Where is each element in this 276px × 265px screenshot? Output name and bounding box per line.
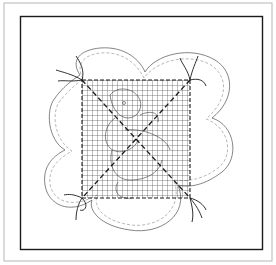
illustration: Line-art craft illustration: a square me… [0,0,276,265]
mesh-grid [82,80,190,198]
craft-diagram [0,0,276,265]
